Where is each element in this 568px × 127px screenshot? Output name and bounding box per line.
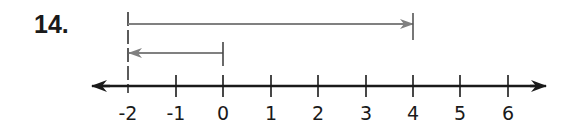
tick-label: 4 [407, 102, 419, 124]
tick-label: 5 [454, 102, 466, 124]
vector-lower [129, 42, 223, 66]
tick-label: 0 [217, 102, 229, 124]
tick-label: 6 [502, 102, 514, 124]
tick-label: 1 [265, 102, 277, 124]
tick-label: 3 [360, 102, 372, 124]
tick-label: -1 [167, 102, 186, 124]
vector-upper [128, 13, 413, 40]
tick-label: 2 [312, 102, 324, 124]
tick-label: -2 [119, 102, 138, 124]
tick-labels: -2 -1 0 1 2 3 4 5 6 [119, 102, 515, 124]
number-line-diagram: -2 -1 0 1 2 3 4 5 6 [0, 0, 568, 127]
